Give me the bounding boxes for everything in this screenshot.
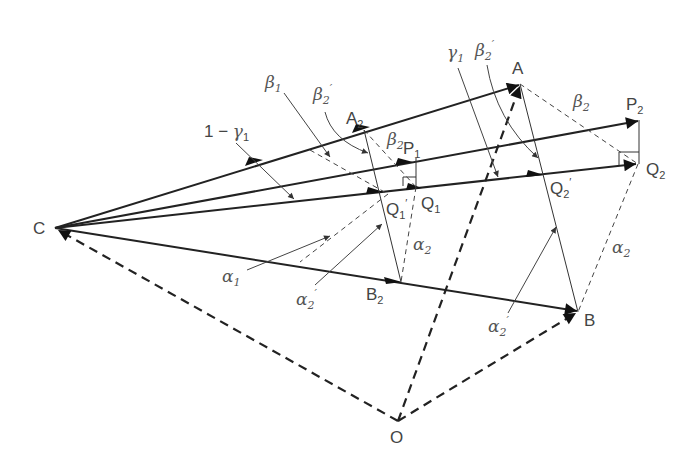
label-a2: A2 bbox=[346, 109, 363, 130]
label-one-minus-gamma1: 1 − γ1 bbox=[204, 121, 249, 143]
ray-c-to-p2 bbox=[55, 121, 638, 228]
leader-one-minus-gamma1 bbox=[236, 143, 294, 199]
label-alpha2-prime-right: α2′ bbox=[488, 314, 509, 339]
leader-gamma1 bbox=[458, 68, 498, 177]
leader-alpha2p-right bbox=[508, 227, 556, 313]
label-q2: Q2 bbox=[646, 160, 665, 181]
label-gamma1: γ1 bbox=[447, 42, 464, 65]
label-b: B bbox=[584, 311, 595, 330]
label-beta2-right: β2 bbox=[572, 91, 590, 114]
label-alpha1: α1 bbox=[222, 266, 240, 289]
label-alpha2-mid: α2 bbox=[413, 234, 431, 257]
label-alpha2-prime-left: α2′ bbox=[296, 287, 317, 312]
label-q1-prime: Q1′ bbox=[386, 197, 407, 221]
dash-q1p-down bbox=[300, 194, 388, 262]
leader-alpha2p-left bbox=[315, 224, 382, 285]
label-beta2-prime-right: β2′ bbox=[474, 38, 495, 63]
label-alpha2-right: α2 bbox=[612, 237, 630, 260]
label-q2-prime: Q2′ bbox=[550, 176, 571, 200]
label-a: A bbox=[512, 59, 524, 78]
dash-q2-b bbox=[578, 164, 638, 312]
right-angle-q2 bbox=[619, 152, 639, 165]
label-p1: P1 bbox=[403, 139, 420, 160]
label-p2: P2 bbox=[626, 95, 643, 116]
label-beta2-mid: β2 bbox=[386, 129, 404, 152]
label-c: C bbox=[33, 219, 45, 238]
dashed-o-to-b bbox=[398, 313, 576, 421]
vector-diagram: C A B O A2 B2 P1 Q1 Q1′ P2 Q2 Q2′ β1 β2′… bbox=[0, 0, 692, 462]
label-b2: B2 bbox=[366, 285, 383, 306]
label-beta1: β1 bbox=[264, 72, 282, 95]
dash-beta1-to-q1p bbox=[310, 150, 388, 194]
dashed-o-to-c bbox=[58, 230, 398, 421]
label-o: O bbox=[390, 428, 403, 447]
label-beta2-prime-left: β2′ bbox=[312, 82, 333, 107]
label-q1: Q1 bbox=[421, 194, 440, 215]
